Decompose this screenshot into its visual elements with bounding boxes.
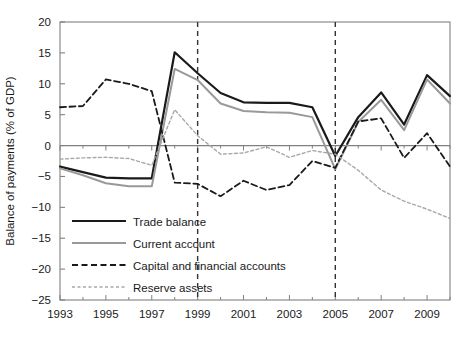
y-tick-label: 0 [45, 140, 51, 152]
y-tick-label: 10 [38, 78, 51, 90]
chart-canvas: 20151050−5−10−15−20−25 19931995199719992… [0, 0, 463, 341]
reference-lines [198, 22, 336, 300]
legend-label: Trade balance [133, 216, 206, 228]
y-tick-label: −5 [38, 170, 51, 182]
legend-label: Reserve assets [133, 282, 213, 294]
series-line-trade-balance [60, 52, 450, 178]
plot-frame [60, 22, 450, 300]
plot-border [60, 22, 450, 300]
y-tick-label: −15 [31, 232, 51, 244]
x-tick-label: 1997 [139, 308, 165, 320]
x-axis-ticks: 199319951997199920012003200520072009 [47, 146, 450, 320]
x-tick-label: 1993 [47, 308, 73, 320]
x-tick-label: 2009 [414, 308, 440, 320]
y-axis-title-text: Balance of payments (% of GDP) [4, 76, 16, 246]
legend-label: Capital and financial accounts [133, 260, 286, 272]
series-line-reserve-assets [60, 110, 450, 219]
x-tick-label: 2005 [322, 308, 348, 320]
data-series-layer [60, 52, 450, 218]
chart-legend: Trade balanceCurrent accountCapital and … [72, 216, 286, 294]
y-tick-label: −25 [31, 294, 51, 306]
y-axis-title: Balance of payments (% of GDP) [4, 76, 16, 246]
x-tick-label: 2001 [231, 308, 257, 320]
y-tick-label: −10 [31, 201, 51, 213]
x-tick-label: 2003 [277, 308, 303, 320]
y-tick-label: −20 [31, 263, 51, 275]
x-tick-label: 2007 [368, 308, 394, 320]
x-tick-label: 1995 [93, 308, 119, 320]
y-tick-label: 5 [45, 109, 51, 121]
balance-of-payments-chart: 20151050−5−10−15−20−25 19931995199719992… [0, 0, 463, 341]
x-tick-label: 1999 [185, 308, 211, 320]
y-tick-label: 15 [38, 47, 51, 59]
legend-label: Current account [133, 238, 216, 250]
y-tick-label: 20 [38, 16, 51, 28]
series-line-current-account [60, 69, 450, 186]
